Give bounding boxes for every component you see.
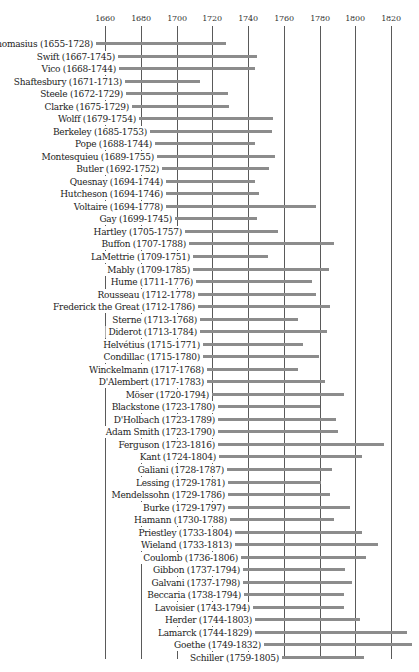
lifespan-bar xyxy=(219,455,362,458)
person-label: Ferguson (1723-1816) xyxy=(115,439,217,451)
person-label: Lavoisier (1743-1794) xyxy=(152,602,252,614)
lifespan-bar xyxy=(218,443,384,446)
x-tick-label: 1800 xyxy=(345,14,365,23)
x-tick-label: 1820 xyxy=(381,14,401,23)
lifespan-row: Voltaire (1694-1778) xyxy=(0,201,419,213)
lifespan-row: Goethe (1749-1832) xyxy=(0,639,419,651)
lifespan-row: Butler (1692-1752) xyxy=(0,163,419,175)
lifespan-bar xyxy=(162,167,269,170)
lifespan-row: Steele (1672-1729) xyxy=(0,88,419,100)
person-label: Voltaire (1694-1778) xyxy=(71,201,165,213)
lifespan-bar xyxy=(125,80,200,83)
lifespan-row: Coulomb (1736-1806) xyxy=(0,552,419,564)
lifespan-bar xyxy=(200,318,298,321)
lifespan-bar xyxy=(118,55,257,58)
lifespan-bar xyxy=(196,280,312,283)
person-label: Frederick the Great (1712-1786) xyxy=(50,301,197,313)
lifespan-row: Clarke (1675-1729) xyxy=(0,101,419,113)
person-label: Mably (1709-1785) xyxy=(104,264,192,276)
lifespan-bar xyxy=(218,430,338,433)
person-label: Adam Smith (1723-1790) xyxy=(103,426,217,438)
lifespan-bar xyxy=(193,268,329,271)
lifespan-bar xyxy=(218,418,336,421)
person-label: Coulomb (1736-1806) xyxy=(140,552,240,564)
lifespan-bar xyxy=(255,631,407,634)
person-label: Gibbon (1737-1794) xyxy=(150,564,242,576)
lifespan-bar xyxy=(218,405,320,408)
lifespan-row: Shaftesbury (1671-1713) xyxy=(0,76,419,88)
lifespan-row: Priestley (1733-1804) xyxy=(0,527,419,539)
lifespan-bar xyxy=(207,380,325,383)
lifespan-row: Möser (1720-1794) xyxy=(0,389,419,401)
lifespan-row: D'Holbach (1723-1789) xyxy=(0,414,419,426)
lifespan-bar xyxy=(264,643,412,646)
lifespan-bar xyxy=(228,481,321,484)
lifespan-row: Herder (1744-1803) xyxy=(0,614,419,626)
person-label: Quesnay (1694-1744) xyxy=(67,176,165,188)
lifespan-bar xyxy=(203,343,303,346)
lifespan-bar xyxy=(255,618,360,621)
lifespan-bar xyxy=(166,205,316,208)
lifespan-row: Vico (1668-1744) xyxy=(0,63,419,75)
person-label: Condillac (1715-1780) xyxy=(101,351,202,363)
lifespan-row: Buffon (1707-1788) xyxy=(0,238,419,250)
lifespan-bar xyxy=(193,255,268,258)
lifespan-row: Lamarck (1744-1829) xyxy=(0,627,419,639)
lifespan-row: Rousseau (1712-1778) xyxy=(0,289,419,301)
lifespan-row: Lavoisier (1743-1794) xyxy=(0,602,419,614)
lifespan-row: Helvétius (1715-1771) xyxy=(0,339,419,351)
person-label: Galvani (1737-1798) xyxy=(148,577,242,589)
person-label: Pope (1688-1744) xyxy=(72,138,154,150)
lifespan-bar xyxy=(243,581,352,584)
person-label: Steele (1672-1729) xyxy=(37,88,125,100)
lifespan-bar xyxy=(282,656,364,659)
person-label: Goethe (1749-1832) xyxy=(171,639,263,651)
person-label: Buffon (1707-1788) xyxy=(98,238,188,250)
lifespan-row: Gay (1699-1745) xyxy=(0,213,419,225)
person-label: Clarke (1675-1729) xyxy=(42,101,131,113)
lifespan-bar xyxy=(241,556,366,559)
lifespan-row: Ferguson (1723-1816) xyxy=(0,439,419,451)
person-label: Rousseau (1712-1778) xyxy=(95,289,197,301)
person-label: Herder (1744-1803) xyxy=(162,614,254,626)
lifespan-row: Schiller (1759-1805) xyxy=(0,652,419,664)
lifespan-row: Lessing (1729-1781) xyxy=(0,477,419,489)
x-tick-label: 1720 xyxy=(202,14,222,23)
person-label: Berkeley (1685-1753) xyxy=(50,126,149,138)
person-label: Lessing (1729-1781) xyxy=(133,477,227,489)
person-label: Galiani (1728-1787) xyxy=(135,464,226,476)
lifespan-bar xyxy=(157,155,275,158)
lifespan-row: Adam Smith (1723-1790) xyxy=(0,426,419,438)
lifespan-bar xyxy=(166,180,255,183)
person-label: Hume (1711-1776) xyxy=(108,276,195,288)
person-label: Hutcheson (1694-1746) xyxy=(57,188,165,200)
lifespan-bar xyxy=(200,330,327,333)
lifespan-row: Frederick the Great (1712-1786) xyxy=(0,301,419,313)
lifespan-bar xyxy=(175,217,257,220)
lifespan-bar xyxy=(155,142,255,145)
lifespan-bar xyxy=(198,305,330,308)
person-label: Montesquieu (1689-1755) xyxy=(38,151,156,163)
person-label: Schiller (1759-1805) xyxy=(187,652,281,664)
lifespan-row: Gibbon (1737-1794) xyxy=(0,564,419,576)
lifespan-bar xyxy=(243,568,345,571)
lifespan-bar xyxy=(235,531,362,534)
lifespan-bar xyxy=(96,42,226,45)
lifespan-row: Mendelssohn (1729-1786) xyxy=(0,489,419,501)
person-label: Sterne (1713-1768) xyxy=(109,314,199,326)
person-label: Vico (1668-1744) xyxy=(39,63,118,75)
person-label: Hartley (1705-1757) xyxy=(91,226,184,238)
lifespan-row: Quesnay (1694-1744) xyxy=(0,176,419,188)
lifespan-bar xyxy=(126,92,228,95)
lifespan-bar xyxy=(244,593,344,596)
lifespan-row: Hamann (1730-1788) xyxy=(0,514,419,526)
lifespan-row: Blackstone (1723-1780) xyxy=(0,401,419,413)
lifespan-bar xyxy=(253,606,344,609)
lifespan-row: Swift (1667-1745) xyxy=(0,51,419,63)
lifespan-bar xyxy=(235,543,378,546)
person-label: Wolff (1679-1754) xyxy=(55,113,138,125)
lifespan-row: Kant (1724-1804) xyxy=(0,451,419,463)
lifespan-row: Galiani (1728-1787) xyxy=(0,464,419,476)
lifespan-bar xyxy=(166,192,259,195)
lifespan-row: Beccaria (1738-1794) xyxy=(0,589,419,601)
